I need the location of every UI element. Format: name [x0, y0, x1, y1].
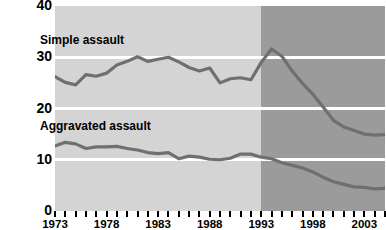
x-axis-tick-1995: [281, 211, 283, 217]
x-axis-tick-1998: [312, 211, 314, 217]
x-axis: 1973197819831988199319982003: [55, 211, 385, 230]
series-label-simple-assault: Simple assault: [40, 33, 124, 47]
x-axis-tick-1990: [229, 211, 231, 217]
y-axis-label-10: 10: [22, 153, 52, 166]
x-axis-tick-2001: [343, 211, 345, 217]
y-axis-label-0: 0: [22, 204, 52, 217]
x-axis-tick-1973: [54, 211, 56, 217]
x-axis-label-1978: 1978: [94, 218, 120, 230]
x-axis-tick-1992: [250, 211, 252, 217]
x-axis-tick-1993: [260, 211, 262, 217]
x-axis-label-1973: 1973: [42, 218, 68, 230]
x-axis-tick-1977: [95, 211, 97, 217]
y-axis-label-20: 20: [22, 102, 52, 115]
x-axis-tick-1978: [106, 211, 108, 217]
x-axis-tick-1984: [167, 211, 169, 217]
y-axis-label-40: 40: [22, 0, 52, 12]
x-axis-tick-2000: [332, 211, 334, 217]
x-axis-tick-1988: [209, 211, 211, 217]
x-axis-tick-1996: [291, 211, 293, 217]
x-axis-tick-1985: [178, 211, 180, 217]
x-axis-tick-1980: [126, 211, 128, 217]
x-axis-tick-1976: [85, 211, 87, 217]
x-axis-tick-1989: [219, 211, 221, 217]
x-axis-tick-1975: [75, 211, 77, 217]
x-axis-label-1998: 1998: [300, 218, 326, 230]
x-axis-tick-1994: [271, 211, 273, 217]
series-label-aggravated-assault: Aggravated assault: [40, 119, 151, 133]
x-axis-label-2003: 2003: [352, 218, 378, 230]
x-axis-label-1983: 1983: [145, 218, 171, 230]
x-axis-tick-1986: [188, 211, 190, 217]
x-axis-tick-2002: [353, 211, 355, 217]
x-axis-tick-1999: [322, 211, 324, 217]
y-axis-label-30: 30: [22, 50, 52, 63]
x-axis-tick-1991: [240, 211, 242, 217]
x-axis-tick-1979: [116, 211, 118, 217]
series-line-aggravated-assault: [55, 142, 385, 189]
x-axis-tick-1982: [147, 211, 149, 217]
x-axis-tick-1974: [64, 211, 66, 217]
x-axis-label-1993: 1993: [248, 218, 274, 230]
x-axis-tick-2004: [374, 211, 376, 217]
x-axis-label-1988: 1988: [197, 218, 223, 230]
x-axis-tick-1981: [137, 211, 139, 217]
x-axis-tick-1997: [302, 211, 304, 217]
x-axis-tick-2003: [363, 211, 365, 217]
x-axis-tick-1987: [198, 211, 200, 217]
x-axis-tick-1983: [157, 211, 159, 217]
